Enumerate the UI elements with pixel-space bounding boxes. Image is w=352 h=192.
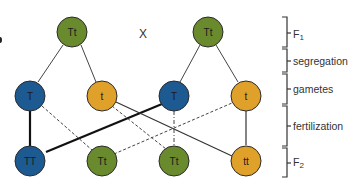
f2-node-4: tt (231, 146, 261, 176)
stage-label-f2: F2 (293, 156, 304, 170)
node-label: Tt (204, 27, 213, 38)
f2-node-2: Tt (87, 146, 117, 176)
node-label: TT (24, 156, 36, 167)
gamete-node-4: t (231, 81, 261, 111)
segregation-line (81, 45, 96, 82)
segregation-line (38, 45, 63, 82)
node-label: T (27, 91, 33, 102)
node-label: t (245, 91, 248, 102)
f2-node-3: Tt (159, 146, 189, 176)
stage-label-segregation: segregation (293, 55, 348, 67)
f2-node-1: TT (15, 146, 45, 176)
stage-label-f1: F1 (293, 28, 304, 42)
node-label: Tt (68, 27, 77, 38)
node-label: tt (243, 156, 249, 167)
segregation-line (180, 45, 200, 82)
cross-symbol: X (139, 27, 147, 41)
segregation-line (216, 45, 238, 82)
node-label: Tt (170, 156, 179, 167)
f1-right-node: Tt (193, 17, 223, 47)
gamete-node-1: T (15, 81, 45, 111)
gamete-node-3: T (159, 81, 189, 111)
node-label: T (171, 91, 177, 102)
gamete-node-2: t (87, 81, 117, 111)
node-label: Tt (98, 156, 107, 167)
stage-label-gametes: gametes (293, 83, 333, 95)
genetic-cross-diagram: Tt X Tt T t T t TT Tt Tt tt (0, 0, 352, 192)
f1-left-node: Tt (57, 17, 87, 47)
stage-brackets (282, 17, 291, 177)
edge-mark (0, 37, 2, 43)
node-label: t (101, 91, 104, 102)
stage-label-fertilization: fertilization (293, 120, 343, 132)
